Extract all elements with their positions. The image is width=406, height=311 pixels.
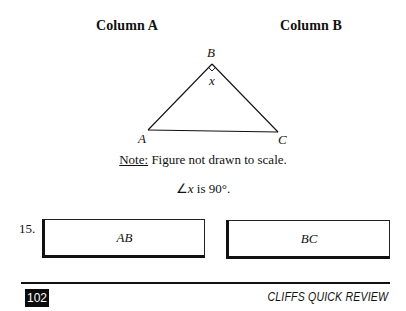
vertex-label-b: B (207, 45, 215, 61)
question-number: 15. (19, 221, 35, 237)
page-number: 102 (25, 289, 49, 307)
triangle-side-bc (212, 64, 278, 132)
triangle-side-ac (148, 130, 278, 132)
given-rest: is 90°. (194, 181, 231, 196)
footer-rule (21, 282, 390, 284)
angle-icon: ∠ (176, 181, 188, 196)
note-prefix: Note: (119, 152, 148, 167)
vertex-label-a: A (138, 131, 146, 147)
figure-note: Note: Figure not drawn to scale. (0, 152, 406, 168)
footer-title: CLIFFS QUICK REVIEW (267, 290, 388, 304)
vertex-label-c: C (278, 132, 287, 148)
column-b-value: BC (301, 231, 318, 247)
right-angle-icon (209, 64, 216, 71)
angle-label-x: x (209, 73, 215, 89)
note-text: Figure not drawn to scale. (148, 152, 287, 167)
triangle-side-ab (148, 64, 212, 130)
column-a-answer-box: AB (42, 219, 205, 258)
column-b-answer-box: BC (226, 220, 390, 259)
given-statement: ∠x is 90°. (0, 181, 406, 197)
column-a-value: AB (117, 230, 133, 246)
